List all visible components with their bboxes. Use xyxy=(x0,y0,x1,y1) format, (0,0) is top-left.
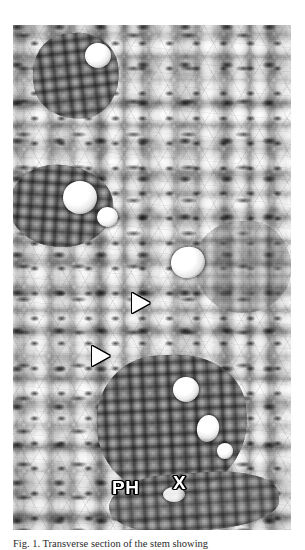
figure-caption: Fig. 1. Transverse section of the stem s… xyxy=(13,538,291,550)
scale-bar-label: 25 µm xyxy=(86,528,125,530)
vignette-overlay xyxy=(13,25,291,530)
xylem-label: X xyxy=(173,473,186,492)
figure-root: X PH 25 µm Fig. 1. Transverse section of… xyxy=(0,0,305,550)
micrograph-image: X PH 25 µm xyxy=(13,25,291,530)
scale-bar: 25 µm xyxy=(36,528,125,530)
phloem-label: PH xyxy=(112,478,139,497)
arrowhead-icon-upper xyxy=(132,293,150,313)
arrowhead-icon-lower xyxy=(92,346,110,366)
